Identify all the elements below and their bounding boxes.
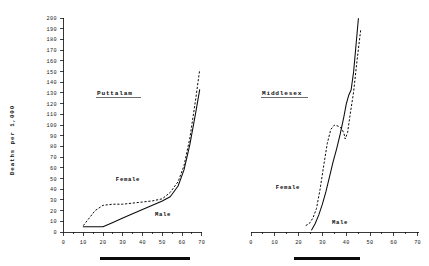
y-tick-label: 40 [50,187,57,193]
right-male-series-label: Male [332,219,348,226]
left-x-ticks [64,232,202,236]
x-tick-label: 0 [62,240,65,246]
right-female-curve [306,30,361,226]
left-panel: 0 10 20 30 40 50 60 70 80 90 100 110 120… [47,16,206,259]
y-tick-label: 100 [47,123,57,129]
x-tick-label: 30 [119,240,126,246]
x-tick-label: 40 [343,240,350,246]
y-tick-label: 160 [47,59,57,65]
right-x-tick-labels: 0 10 20 30 40 50 60 70 [249,240,421,246]
x-tick-label: 70 [414,240,421,246]
x-tick-label: 70 [198,240,205,246]
y-tick-label: 190 [47,27,57,33]
right-panel: 0 10 20 30 40 50 60 70 Middlesex Female … [249,19,421,259]
y-tick-label: 120 [47,102,57,108]
y-axis-title: Deaths per 1,000 [9,105,16,175]
right-panel-title: Middlesex [262,90,302,97]
dual-panel-mortality-chart: Deaths per 1,000 [0,0,429,266]
x-tick-label: 50 [367,240,374,246]
left-panel-title: Puttalam [97,90,133,97]
x-tick-label: 10 [271,240,278,246]
y-tick-label: 150 [47,70,57,76]
y-tick-label: 180 [47,37,57,43]
x-tick-label: 60 [179,240,186,246]
y-tick-label: 30 [50,198,57,204]
y-tick-label: 110 [47,112,57,118]
left-male-series-label: Male [155,211,171,218]
x-tick-label: 0 [249,240,252,246]
left-y-tick-labels: 0 10 20 30 40 50 60 70 80 90 100 110 120… [47,16,57,236]
y-tick-label: 70 [50,155,57,161]
y-tick-label: 170 [47,48,57,54]
right-female-series-label: Female [276,184,300,191]
y-tick-label: 130 [47,91,57,97]
y-tick-label: 90 [50,134,57,140]
right-x-ticks [251,232,418,236]
x-tick-label: 20 [100,240,107,246]
y-tick-label: 0 [54,230,57,236]
y-tick-label: 140 [47,80,57,86]
x-tick-label: 10 [80,240,87,246]
left-x-tick-labels: 0 10 20 30 40 50 60 70 [62,240,206,246]
x-tick-label: 20 [295,240,302,246]
y-tick-label: 20 [50,209,57,215]
y-tick-label: 60 [50,166,57,172]
left-female-series-label: Female [116,176,140,183]
y-tick-label: 10 [50,219,57,225]
x-tick-label: 40 [139,240,146,246]
x-tick-label: 60 [390,240,397,246]
y-tick-label: 80 [50,144,57,150]
left-y-ticks [60,18,64,232]
left-male-curve [83,90,199,227]
y-tick-label: 200 [47,16,57,22]
y-tick-label: 50 [50,177,57,183]
x-tick-label: 50 [159,240,166,246]
x-tick-label: 30 [319,240,326,246]
